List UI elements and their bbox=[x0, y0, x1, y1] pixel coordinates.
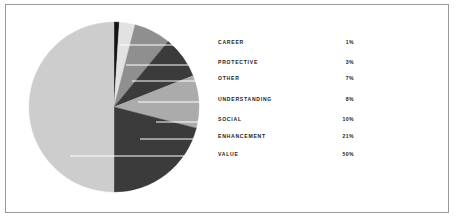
legend-row-understanding[interactable]: UNDERSTANDING8% bbox=[212, 93, 372, 106]
pie-svg bbox=[28, 8, 200, 206]
legend-row-value[interactable]: VALUE50% bbox=[212, 148, 372, 161]
legend-value-enhancement: 21% bbox=[343, 130, 354, 143]
pie-chart-area: CAREER1%PROTECTIVE3%OTHER7%UNDERSTANDING… bbox=[6, 5, 448, 212]
legend-row-enhancement[interactable]: ENHANCEMENT21% bbox=[212, 130, 372, 143]
legend-row-career[interactable]: CAREER1% bbox=[212, 36, 372, 49]
legend-label-career: CAREER bbox=[218, 36, 244, 49]
legend-row-protective[interactable]: PROTECTIVE3% bbox=[212, 56, 372, 69]
legend-value-career: 1% bbox=[346, 36, 354, 49]
legend-label-value: VALUE bbox=[218, 148, 239, 161]
figure-canvas: CAREER1%PROTECTIVE3%OTHER7%UNDERSTANDING… bbox=[0, 0, 456, 221]
legend-value-other: 7% bbox=[346, 72, 354, 85]
pie-chart bbox=[28, 8, 200, 206]
pie-legend: CAREER1%PROTECTIVE3%OTHER7%UNDERSTANDING… bbox=[212, 29, 378, 169]
legend-value-social: 10% bbox=[343, 113, 354, 126]
legend-label-social: SOCIAL bbox=[218, 113, 242, 126]
legend-label-other: OTHER bbox=[218, 72, 240, 85]
legend-label-protective: PROTECTIVE bbox=[218, 56, 258, 69]
legend-value-protective: 3% bbox=[346, 56, 354, 69]
chart-panel: CAREER1%PROTECTIVE3%OTHER7%UNDERSTANDING… bbox=[5, 4, 449, 213]
legend-value-value: 50% bbox=[343, 148, 354, 161]
legend-row-other[interactable]: OTHER7% bbox=[212, 72, 372, 85]
pie-slice-value[interactable] bbox=[29, 22, 114, 192]
legend-value-understanding: 8% bbox=[346, 93, 354, 106]
legend-label-enhancement: ENHANCEMENT bbox=[218, 130, 266, 143]
legend-label-understanding: UNDERSTANDING bbox=[218, 93, 272, 106]
legend-row-social[interactable]: SOCIAL10% bbox=[212, 113, 372, 126]
